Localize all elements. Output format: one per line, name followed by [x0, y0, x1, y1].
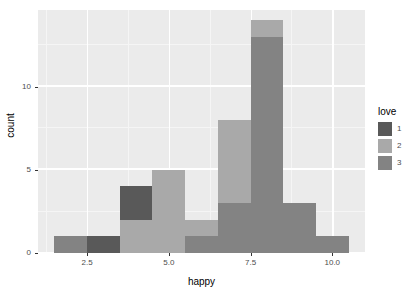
bar-stack — [120, 186, 153, 253]
grid-major-vertical — [332, 10, 333, 253]
x-axis-tick — [87, 253, 88, 256]
y-axis-title: count — [5, 96, 16, 156]
legend-item-label: 3 — [397, 156, 401, 170]
bar-segment — [218, 203, 251, 253]
legend-swatch — [378, 122, 392, 136]
y-axis-tick — [35, 170, 38, 171]
legend-key-icon — [378, 156, 392, 170]
y-axis-tick-label: 10 — [0, 82, 31, 91]
chart-figure: happy count love 123 05102.55.07.510.0 — [0, 0, 420, 296]
grid-major-horizontal — [38, 85, 365, 86]
plot-panel — [38, 10, 365, 253]
x-axis-tick-label: 7.5 — [231, 258, 271, 267]
x-axis-tick — [169, 253, 170, 256]
bar-stack — [87, 236, 120, 253]
x-axis-tick-label: 10.0 — [312, 258, 352, 267]
bar-stack — [283, 203, 316, 253]
bar-stack — [251, 20, 284, 253]
y-axis-tick — [35, 253, 38, 254]
legend-item[interactable]: 1 — [378, 121, 420, 137]
x-axis-tick-label: 5.0 — [149, 258, 189, 267]
x-axis-tick — [332, 253, 333, 256]
bar-segment — [185, 236, 218, 253]
y-axis-tick — [35, 87, 38, 88]
x-axis-title: happy — [38, 276, 365, 287]
bar-stack — [185, 220, 218, 253]
bar-segment — [316, 236, 349, 253]
bar-segment — [120, 186, 153, 219]
bar-segment — [185, 220, 218, 237]
bar-segment — [87, 236, 120, 253]
bar-stack — [218, 120, 251, 253]
bar-segment — [251, 37, 284, 253]
bar-segment — [218, 120, 251, 203]
legend-item[interactable]: 3 — [378, 155, 420, 171]
legend-items: 123 — [378, 121, 420, 171]
legend-item-label: 2 — [397, 139, 401, 153]
y-axis-tick-label: 0 — [0, 248, 31, 257]
x-axis-tick-label: 2.5 — [67, 258, 107, 267]
legend-swatch — [378, 139, 392, 153]
bar-segment — [152, 170, 185, 253]
bar-stack — [316, 236, 349, 253]
y-axis-tick-label: 5 — [0, 165, 31, 174]
legend: love 123 — [378, 106, 420, 172]
legend-swatch — [378, 156, 392, 170]
bar-segment — [251, 20, 284, 37]
legend-key-icon — [378, 139, 392, 153]
legend-item[interactable]: 2 — [378, 138, 420, 154]
grid-minor-vertical — [210, 10, 211, 253]
x-axis-tick — [251, 253, 252, 256]
bar-segment — [283, 203, 316, 253]
legend-title: love — [378, 106, 420, 117]
bar-segment — [54, 236, 87, 253]
grid-major-horizontal — [38, 168, 365, 169]
bar-stack — [152, 170, 185, 253]
bar-stack — [54, 236, 87, 253]
legend-item-label: 1 — [397, 122, 401, 136]
bar-segment — [120, 220, 153, 253]
grid-minor-vertical — [46, 10, 47, 253]
legend-key-icon — [378, 122, 392, 136]
grid-major-vertical — [87, 10, 88, 253]
